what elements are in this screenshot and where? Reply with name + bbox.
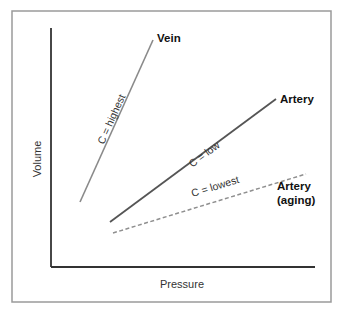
x-axis-label: Pressure [160, 278, 204, 290]
artery-label: Artery [280, 93, 314, 105]
y-axis-label: Volume [31, 137, 43, 181]
artery-aging-label-line1: Artery [277, 180, 311, 192]
compliance-diagram: Vein Artery Artery (aging) C = highest C… [0, 0, 339, 310]
artery-aging-label-line2: (aging) [277, 194, 315, 206]
outer-frame [12, 11, 331, 302]
vein-label: Vein [157, 32, 181, 44]
diagram-graphics [0, 0, 339, 310]
